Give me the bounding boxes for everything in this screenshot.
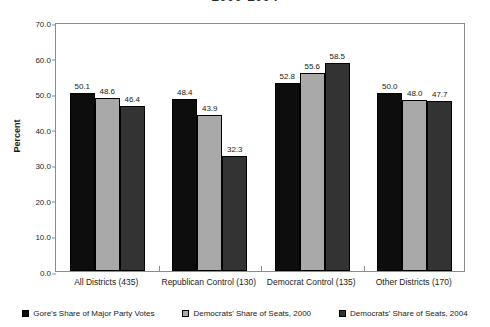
bar[interactable] [377, 93, 402, 271]
bar-value-label: 58.5 [329, 52, 345, 61]
y-axis-tick: 10.0 [35, 233, 56, 242]
bar-slot-row: 48.443.932.3 [159, 24, 262, 271]
bar-group: 50.048.047.7 [364, 24, 467, 271]
bar-slot: 55.6 [300, 24, 325, 271]
legend-item[interactable]: Democrats' Share of Seats, 2004 [339, 309, 468, 318]
bar-slot: 58.5 [325, 24, 350, 271]
bar-value-label: 52.8 [279, 72, 295, 81]
bar-slot: 43.9 [197, 24, 222, 271]
legend-label: Gore's Share of Major Party Votes [33, 309, 154, 318]
bar[interactable] [402, 100, 427, 271]
bar-slot-row: 50.048.047.7 [364, 24, 467, 271]
bar-slot: 48.4 [172, 24, 197, 271]
bar[interactable] [325, 63, 350, 271]
bar-value-label: 32.3 [227, 145, 243, 154]
bar-group: 48.443.932.3 [159, 24, 262, 271]
x-axis-category-label: Democrat Control (135) [260, 277, 363, 287]
legend-swatch-icon [22, 310, 29, 317]
bar-slot: 46.4 [120, 24, 145, 271]
legend-item[interactable]: Gore's Share of Major Party Votes [22, 309, 154, 318]
bar[interactable] [70, 93, 95, 271]
bar[interactable] [120, 106, 145, 271]
bar-group: 50.148.646.4 [56, 24, 159, 271]
y-axis-tick: 60.0 [35, 55, 56, 64]
bar[interactable] [222, 156, 247, 271]
bar-value-label: 48.4 [177, 88, 193, 97]
bar-value-label: 50.0 [382, 82, 398, 91]
bar-value-label: 55.6 [304, 62, 320, 71]
bar-slot: 50.0 [377, 24, 402, 271]
bar-slot-row: 52.855.658.5 [261, 24, 364, 271]
bar-slot: 48.6 [95, 24, 120, 271]
y-axis-tick: 50.0 [35, 91, 56, 100]
legend-label: Democrats' Share of Seats, 2004 [350, 309, 468, 318]
bar-value-label: 50.1 [74, 82, 90, 91]
y-axis-tick: 30.0 [35, 162, 56, 171]
bar[interactable] [275, 83, 300, 271]
bar-group: 52.855.658.5 [261, 24, 364, 271]
legend-swatch-icon [182, 310, 189, 317]
bar[interactable] [197, 115, 222, 271]
bar-slot: 32.3 [222, 24, 247, 271]
y-axis-title: Percent [12, 106, 22, 166]
y-axis-tick: 20.0 [35, 197, 56, 206]
y-axis-tick: 0.0 [40, 269, 56, 278]
bar-slot: 47.7 [427, 24, 452, 271]
bar-value-label: 46.4 [124, 95, 140, 104]
legend-swatch-icon [339, 310, 346, 317]
bar-value-label: 48.6 [99, 87, 115, 96]
y-axis-tick: 70.0 [35, 20, 56, 29]
x-axis-category-label: All Districts (435) [55, 277, 158, 287]
bar[interactable] [172, 99, 197, 271]
bar-value-label: 48.0 [407, 89, 423, 98]
y-axis-tick: 40.0 [35, 126, 56, 135]
bar[interactable] [427, 101, 452, 271]
bar[interactable] [300, 73, 325, 271]
chart-title: 2000-2004 [0, 0, 490, 4]
legend-item[interactable]: Democrats' Share of Seats, 2000 [182, 309, 311, 318]
bar-value-label: 47.7 [432, 90, 448, 99]
chart-legend: Gore's Share of Major Party VotesDemocra… [0, 309, 490, 318]
legend-label: Democrats' Share of Seats, 2000 [193, 309, 311, 318]
bar-slot: 50.1 [70, 24, 95, 271]
bar-slot-row: 50.148.646.4 [56, 24, 159, 271]
x-axis-category-label: Other Districts (170) [363, 277, 466, 287]
plot-area: 70.060.050.040.030.020.010.00.0 50.148.6… [55, 23, 465, 272]
bar[interactable] [95, 98, 120, 271]
bar-slot: 52.8 [275, 24, 300, 271]
bar-slot: 48.0 [402, 24, 427, 271]
bar-value-label: 43.9 [202, 104, 218, 113]
x-axis-category-label: Republican Control (130) [158, 277, 261, 287]
